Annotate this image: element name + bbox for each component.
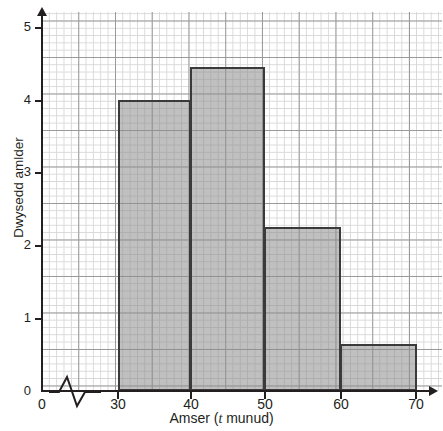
y-tick-5 xyxy=(35,27,42,29)
y-tick-4 xyxy=(35,100,42,102)
x-axis-title-suffix: munud) xyxy=(222,410,273,426)
histogram-bar-40-50 xyxy=(190,67,265,391)
x-axis-arrow-icon xyxy=(429,386,438,396)
histogram-chart: 5 4 3 2 1 0 0 30 40 50 60 70 Dwysedd aml… xyxy=(0,0,443,431)
histogram-bar-50-60 xyxy=(264,227,341,391)
y-tick-1 xyxy=(35,318,42,320)
y-tick-3 xyxy=(35,172,42,174)
y-axis-title: Dwysedd amlder xyxy=(11,118,26,258)
x-axis-title-prefix: Amser ( xyxy=(169,410,218,426)
histogram-bar-30-40 xyxy=(118,100,191,391)
bars-layer xyxy=(0,0,443,431)
histogram-bar-60-70 xyxy=(340,344,417,391)
y-axis-line xyxy=(41,14,43,392)
x-axis-break-icon xyxy=(49,373,101,409)
x-axis-title: Amser (t munud) xyxy=(0,410,443,427)
y-axis-arrow-icon xyxy=(37,7,47,16)
y-tick-2 xyxy=(35,245,42,247)
